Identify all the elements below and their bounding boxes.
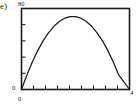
axes-frame — [22, 9, 130, 90]
plot-area — [0, 0, 138, 106]
figure-panel: (e) 80 0 0 4 — [0, 0, 138, 106]
